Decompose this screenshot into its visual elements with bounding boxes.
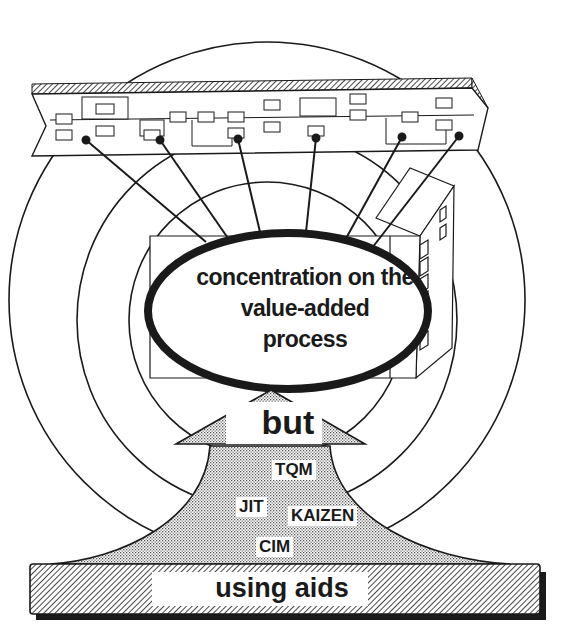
process-chain-band	[32, 78, 488, 156]
center-label: concentration on the value-added process	[160, 262, 450, 355]
center-label-line: value-added	[160, 293, 450, 324]
aid-label-tqm: TQM	[272, 460, 316, 480]
base-label: using aids	[162, 571, 402, 605]
diagram-canvas: concentration on the value-added process…	[0, 0, 573, 642]
center-label-line: concentration on the	[160, 262, 450, 293]
aid-label-kaizen: KAIZEN	[288, 506, 357, 526]
center-label-line: process	[160, 324, 450, 355]
aid-label-cim: CIM	[256, 537, 293, 557]
arrow-label: but	[238, 402, 338, 442]
aid-label-jit: JIT	[236, 497, 267, 517]
